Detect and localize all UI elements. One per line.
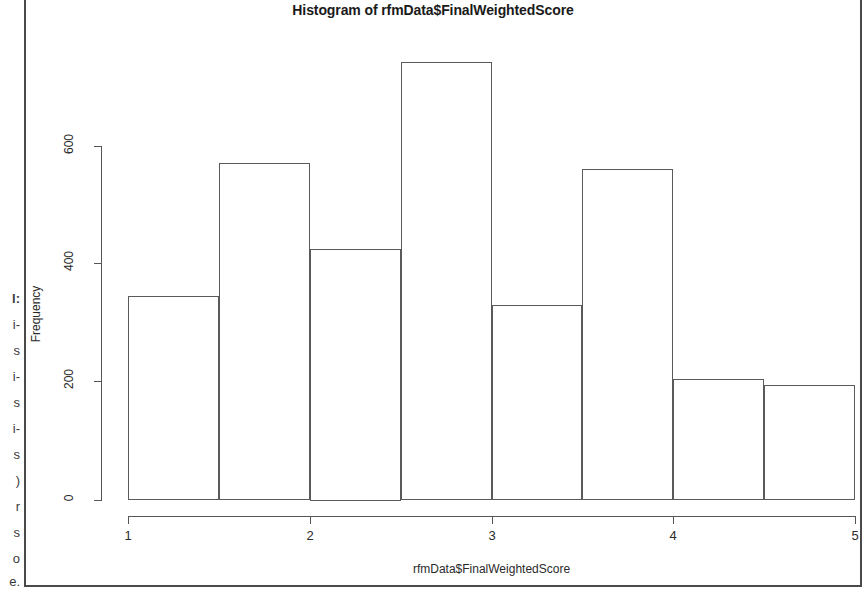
histogram-bar — [128, 296, 219, 500]
histogram-bar — [310, 249, 401, 501]
histogram-bar — [673, 379, 764, 500]
histogram-bar — [401, 62, 492, 500]
histogram-bar — [219, 163, 310, 501]
histogram-bar — [582, 169, 673, 501]
plot-area: Histogram of rfmData$FinalWeightedScore … — [0, 0, 866, 596]
figure-page: l: i- s i- s i- s ) r s o e. Histogram o… — [0, 0, 866, 596]
histogram-bars — [0, 0, 866, 596]
histogram-bar — [764, 385, 855, 501]
histogram-bar — [492, 305, 583, 501]
